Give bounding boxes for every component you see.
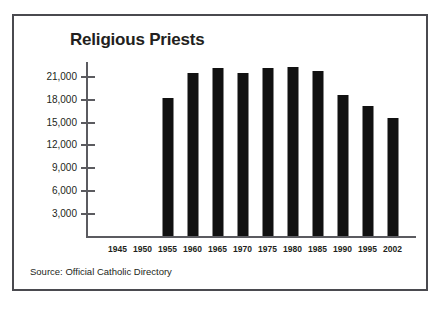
source-note: Source: Official Catholic Directory — [30, 266, 172, 277]
x-axis-tick-label: 2002 — [380, 244, 405, 254]
bar[interactable] — [162, 98, 173, 236]
y-axis-tick-mark — [81, 190, 95, 192]
bar[interactable] — [337, 95, 348, 236]
plot-area: 3,0006,0009,00012,00015,00018,00021,000 … — [86, 62, 416, 238]
bar[interactable] — [187, 73, 198, 236]
y-axis-tick-label: 6,000 — [52, 185, 77, 196]
x-axis-tick-label: 1945 — [105, 244, 130, 254]
x-axis-tick-label: 1960 — [180, 244, 205, 254]
y-axis-tick-mark — [81, 76, 95, 78]
y-axis-line — [86, 62, 88, 238]
y-axis-tick-mark — [81, 144, 95, 146]
x-axis-tick-label: 1995 — [355, 244, 380, 254]
bar[interactable] — [387, 118, 398, 236]
y-axis-tick-mark — [81, 167, 95, 169]
bar[interactable] — [212, 68, 223, 236]
y-axis-tick-label: 15,000 — [46, 116, 77, 127]
x-axis-line — [86, 236, 416, 238]
chart-figure-frame: Religious Priests 3,0006,0009,00012,0001… — [12, 14, 428, 291]
x-axis-tick-label: 1990 — [330, 244, 355, 254]
x-axis-tick-label: 1970 — [230, 244, 255, 254]
bar[interactable] — [237, 73, 248, 236]
y-axis-tick-mark — [81, 99, 95, 101]
x-axis-tick-label: 1955 — [155, 244, 180, 254]
bar[interactable] — [287, 67, 298, 236]
y-axis-tick-mark — [81, 122, 95, 124]
y-axis-tick-mark — [81, 213, 95, 215]
y-axis-tick-label: 9,000 — [52, 162, 77, 173]
bar[interactable] — [262, 68, 273, 236]
x-axis-tick-label: 1985 — [305, 244, 330, 254]
x-axis-tick-label: 1975 — [255, 244, 280, 254]
page-title: Religious Priests — [70, 30, 205, 50]
y-axis-tick-label: 12,000 — [46, 139, 77, 150]
bar[interactable] — [312, 71, 323, 236]
bar[interactable] — [362, 106, 373, 236]
y-axis-tick-label: 3,000 — [52, 208, 77, 219]
y-axis-tick-label: 18,000 — [46, 93, 77, 104]
x-axis-tick-label: 1965 — [205, 244, 230, 254]
x-axis-tick-label: 1980 — [280, 244, 305, 254]
y-axis-tick-label: 21,000 — [46, 70, 77, 81]
x-axis-tick-label: 1950 — [130, 244, 155, 254]
